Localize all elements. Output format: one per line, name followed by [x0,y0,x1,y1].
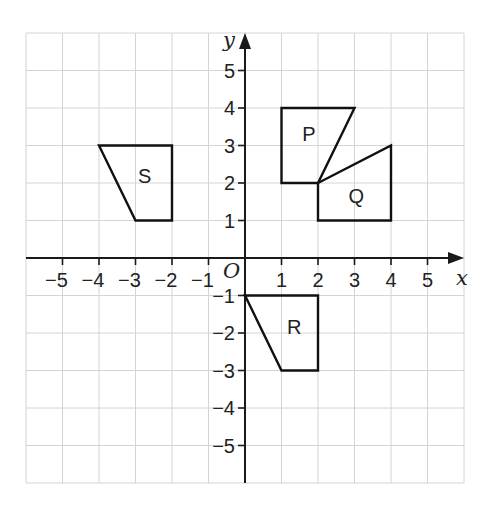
x-tick-label: 3 [349,269,360,291]
x-tick-label: −1 [191,269,214,291]
x-tick-label: 4 [385,269,396,291]
y-tick-label: 5 [224,60,235,82]
y-axis-arrow-icon [239,33,251,49]
y-tick-label: −1 [212,285,235,307]
x-axis-label: x [456,266,468,290]
x-tick-label: −3 [118,269,141,291]
x-tick-label: −2 [155,269,178,291]
y-tick-label: 1 [224,210,235,232]
y-tick-label: 4 [224,97,235,119]
y-tick-label: −4 [212,397,235,419]
origin-label: O [223,259,240,283]
x-tick-label: 1 [276,269,287,291]
shape-label-s: S [138,165,151,187]
y-axis-label: y [222,28,236,52]
shape-label-q: Q [349,185,365,207]
shape-label-p: P [302,123,315,145]
y-tick-label: −5 [212,435,235,457]
x-axis-arrow-icon [448,252,464,264]
coordinate-grid: −5−4−3−2−11234554321−1−2−3−4−5 PQRS x y … [0,0,490,517]
y-tick-label: −3 [212,360,235,382]
x-tick-label: 2 [312,269,323,291]
y-tick-label: 3 [224,135,235,157]
axes [26,33,464,483]
x-tick-label: −5 [45,269,68,291]
x-tick-label: 5 [422,269,433,291]
y-tick-label: 2 [224,172,235,194]
x-tick-label: −4 [82,269,105,291]
shape-label-r: R [287,316,301,338]
y-tick-label: −2 [212,322,235,344]
